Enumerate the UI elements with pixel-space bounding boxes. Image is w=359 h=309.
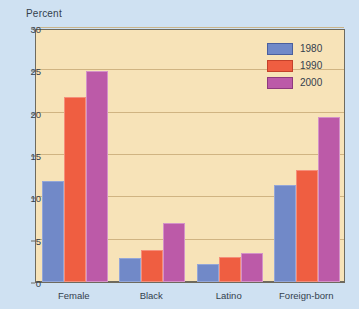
legend-swatch-1980 <box>267 43 293 55</box>
y-tick-mark-25 <box>31 71 35 72</box>
y-tick-mark-5 <box>31 240 35 241</box>
y-tick-mark-20 <box>31 113 35 114</box>
x-tick-label: Female <box>58 290 90 301</box>
bar[interactable] <box>42 181 64 282</box>
bar[interactable] <box>296 170 318 282</box>
bar[interactable] <box>241 253 263 282</box>
bar[interactable] <box>274 185 296 282</box>
y-tick-label-25: 25 <box>17 66 41 77</box>
bar[interactable] <box>163 223 185 282</box>
legend-swatch-1990 <box>267 60 293 72</box>
legend-item[interactable]: 1990 <box>267 59 322 72</box>
bar-group <box>36 30 114 282</box>
bar[interactable] <box>219 257 241 282</box>
bar[interactable] <box>64 97 86 282</box>
y-tick-label-30: 30 <box>17 24 41 35</box>
legend-swatch-2000 <box>267 77 293 89</box>
bar[interactable] <box>86 71 108 282</box>
y-tick-mark-0 <box>31 283 35 284</box>
legend: 198019902000 <box>267 42 322 89</box>
legend-label-2000: 2000 <box>300 78 322 88</box>
y-tick-label-5: 5 <box>17 235 41 246</box>
y-tick-mark-10 <box>31 198 35 199</box>
chart-page: Percent 051015202530 FemaleBlackLatinoFo… <box>0 0 359 309</box>
y-tick-label-15: 15 <box>17 151 41 162</box>
bar-group <box>114 30 192 282</box>
bar[interactable] <box>197 264 219 282</box>
y-tick-label-0: 0 <box>17 278 41 289</box>
x-tick-label: Foreign-born <box>279 290 333 301</box>
x-tick-label: Black <box>140 290 163 301</box>
bar[interactable] <box>141 250 163 282</box>
bar-group <box>191 30 269 282</box>
y-axis-title: Percent <box>26 8 62 19</box>
y-tick-mark-30 <box>31 29 35 30</box>
legend-label-1990: 1990 <box>300 61 322 71</box>
y-tick-label-10: 10 <box>17 193 41 204</box>
bar[interactable] <box>318 117 340 282</box>
legend-label-1980: 1980 <box>300 44 322 54</box>
legend-item[interactable]: 1980 <box>267 42 322 55</box>
legend-item[interactable]: 2000 <box>267 76 322 89</box>
gridline-30 <box>36 27 344 28</box>
y-tick-mark-15 <box>31 156 35 157</box>
x-tick-label: Latino <box>216 290 242 301</box>
y-tick-label-20: 20 <box>17 108 41 119</box>
bar[interactable] <box>119 258 141 282</box>
